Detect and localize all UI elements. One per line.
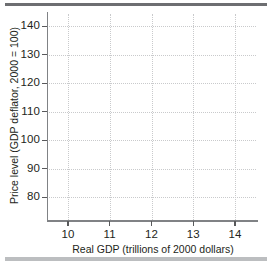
x-tick-label: 12 [137,229,167,241]
gridline-vertical [110,14,111,220]
y-tick-mark [42,168,47,169]
y-tick-mark [42,83,47,84]
gridline-vertical [152,14,153,220]
x-tick-label: 13 [178,229,208,241]
y-tick-mark [42,140,47,141]
y-tick-mark [42,26,47,27]
x-tick-mark [109,221,110,226]
x-axis-line [47,220,258,222]
x-tick-mark [234,221,235,226]
gridline-vertical [68,14,69,220]
x-tick-mark [151,221,152,226]
x-axis-title: Real GDP (trillions of 2000 dollars) [47,244,259,255]
gridline-vertical [235,14,236,220]
x-tick-mark [67,221,68,226]
y-tick-mark [42,197,47,198]
x-tick-label: 11 [95,229,125,241]
y-tick-mark [42,111,47,112]
gridline-vertical [193,14,194,220]
chart-figure: 8090100110120130140 1011121314 Real GDP … [0,0,271,267]
top-divider-rule [5,3,267,6]
x-tick-label: 10 [53,229,83,241]
bottom-divider-rule [5,257,267,261]
x-tick-label: 14 [220,229,250,241]
y-axis-title: Price level (GDP deflator, 2000 = 100) [9,16,20,216]
y-tick-mark [42,54,47,55]
x-tick-mark [193,221,194,226]
y-axis-line [47,12,48,221]
